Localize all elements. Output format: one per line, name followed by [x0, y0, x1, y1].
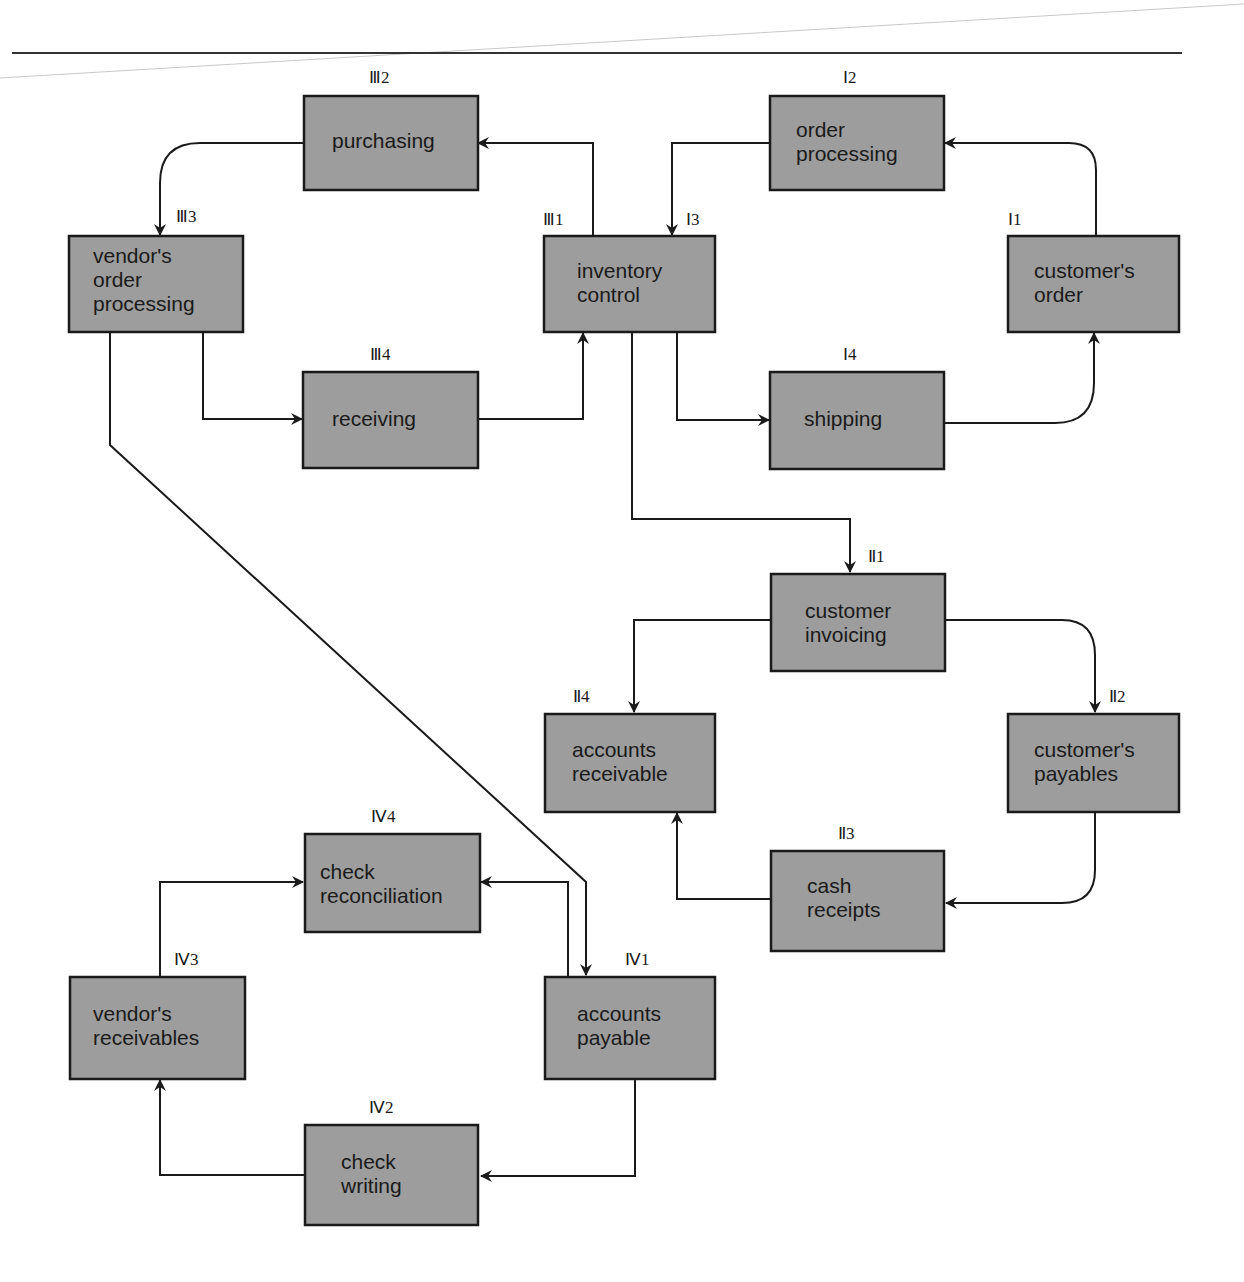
node-purchasing-line-1: purchasing: [332, 129, 435, 152]
node-cash-receipts-line-1: cash: [807, 874, 851, 897]
node-cash-receipts[interactable]: cash receipts: [771, 851, 944, 951]
edge-cash-receipts-to-accounts-receivable: [677, 813, 770, 899]
edge-customers-payables-to-cash-receipts: [946, 813, 1095, 903]
node-vendors-order-processing[interactable]: vendor's order processing: [69, 236, 243, 332]
edge-receiving-to-inventory-control: [478, 333, 583, 419]
label-IV2: Ⅳ2: [369, 1098, 394, 1117]
edge-customer-invoicing-to-accounts-receivable: [634, 620, 770, 712]
node-vendors-order-processing-line-2: order: [93, 268, 142, 291]
label-III4: Ⅲ4: [370, 345, 391, 364]
node-shipping-line-1: shipping: [804, 407, 882, 430]
node-vendors-order-processing-line-1: vendor's: [93, 244, 172, 267]
edge-shipping-to-customers-order: [945, 333, 1094, 423]
node-order-processing[interactable]: order processing: [770, 96, 944, 190]
edge-customer-invoicing-to-customers-payables: [945, 620, 1095, 712]
node-shipping[interactable]: shipping: [770, 372, 944, 469]
node-vendors-order-processing-line-3: processing: [93, 292, 195, 315]
node-accounts-payable[interactable]: accounts payable: [545, 977, 715, 1079]
node-inventory-control[interactable]: inventory control: [544, 236, 715, 332]
label-IV3: Ⅳ3: [174, 950, 199, 969]
label-I1: Ⅰ1: [1008, 210, 1022, 229]
edge-inventory-control-to-purchasing: [478, 143, 593, 236]
edge-accounts-payable-to-check-writing: [481, 1080, 635, 1176]
node-customer-invoicing-line-1: customer: [805, 599, 891, 622]
node-order-processing-line-2: processing: [796, 142, 898, 165]
label-IV1: Ⅳ1: [625, 950, 650, 969]
edge-inventory-control-to-shipping: [677, 332, 769, 420]
label-I3: Ⅰ3: [686, 210, 700, 229]
node-accounts-receivable-line-1: accounts: [572, 738, 656, 761]
label-III3: Ⅲ3: [176, 207, 197, 226]
node-check-writing[interactable]: check writing: [305, 1125, 478, 1225]
label-I4: Ⅰ4: [843, 345, 857, 364]
node-check-reconciliation-line-1: check: [320, 860, 375, 883]
node-check-reconciliation[interactable]: check reconciliation: [305, 834, 480, 932]
node-accounts-payable-line-1: accounts: [577, 1002, 661, 1025]
node-customers-payables-line-2: payables: [1034, 762, 1118, 785]
node-vendors-receivables-line-1: vendor's: [93, 1002, 172, 1025]
label-IV4: Ⅳ4: [371, 807, 396, 826]
node-vendors-receivables[interactable]: vendor's receivables: [70, 977, 245, 1079]
node-check-writing-line-1: check: [341, 1150, 396, 1173]
node-accounts-receivable[interactable]: accounts receivable: [545, 714, 715, 812]
node-customers-payables[interactable]: customer's payables: [1008, 714, 1179, 812]
node-customers-order-line-2: order: [1034, 283, 1083, 306]
scan-artifact-line: [0, 4, 1244, 78]
node-cash-receipts-line-2: receipts: [807, 898, 881, 921]
node-customer-invoicing[interactable]: customer invoicing: [771, 574, 945, 671]
label-II4: Ⅱ4: [573, 687, 590, 706]
node-accounts-receivable-line-2: receivable: [572, 762, 668, 785]
label-III1: Ⅲ1: [543, 210, 564, 229]
node-accounts-payable-line-2: payable: [577, 1026, 651, 1049]
node-order-processing-line-1: order: [796, 118, 845, 141]
node-inventory-control-line-1: inventory: [577, 259, 663, 282]
label-II3: Ⅱ3: [838, 824, 855, 843]
edge-accounts-payable-to-check-reconciliation: [481, 882, 568, 976]
edge-vendors-order-processing-to-receiving: [203, 332, 302, 419]
node-customers-order[interactable]: customer's order: [1008, 236, 1179, 332]
edge-check-writing-to-vendors-receivables: [160, 1080, 304, 1175]
label-I2: Ⅰ2: [843, 68, 857, 87]
node-customers-order-line-1: customer's: [1034, 259, 1135, 282]
node-vendors-receivables-line-2: receivables: [93, 1026, 199, 1049]
node-check-writing-line-2: writing: [340, 1174, 402, 1197]
node-receiving[interactable]: receiving: [303, 372, 478, 468]
node-customers-payables-line-1: customer's: [1034, 738, 1135, 761]
node-customer-invoicing-line-2: invoicing: [805, 623, 887, 646]
label-II2: Ⅱ2: [1109, 687, 1126, 706]
label-II1: Ⅱ1: [868, 547, 885, 566]
label-III2: Ⅲ2: [369, 68, 390, 87]
node-inventory-control-line-2: control: [577, 283, 640, 306]
node-receiving-line-1: receiving: [332, 407, 416, 430]
business-cycle-flow-diagram: purchasing Ⅲ2 vendor's order processing …: [0, 0, 1244, 1282]
node-check-reconciliation-line-2: reconciliation: [320, 884, 443, 907]
node-purchasing[interactable]: purchasing: [304, 96, 478, 190]
